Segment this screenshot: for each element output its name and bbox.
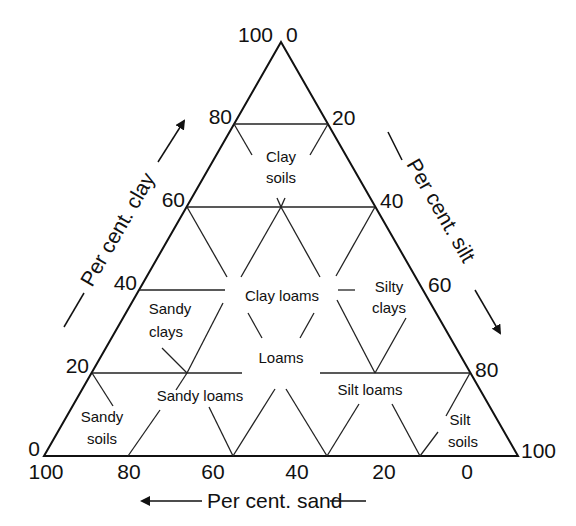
svg-text:60: 60 — [162, 188, 185, 211]
svg-text:40: 40 — [380, 189, 403, 212]
label-clay-soils: Clay — [266, 148, 297, 165]
svg-text:soils: soils — [266, 169, 296, 186]
svg-text:100: 100 — [28, 460, 63, 483]
svg-text:0: 0 — [286, 23, 298, 46]
svg-text:80: 80 — [475, 358, 498, 381]
svg-text:soils: soils — [448, 433, 478, 450]
clay-axis-title: Per cent. clay — [64, 121, 184, 327]
arrow-up-icon — [158, 121, 184, 162]
svg-text:40: 40 — [285, 460, 308, 483]
svg-text:clays: clays — [149, 323, 183, 340]
arrow-down-icon — [475, 290, 500, 333]
silt-axis-ticks: 0 20 40 60 80 100 — [286, 23, 556, 462]
label-sandy-loams: Sandy loams — [157, 387, 244, 404]
svg-text:0: 0 — [28, 437, 40, 460]
svg-text:40: 40 — [114, 271, 137, 294]
sand-axis-ticks: 100 80 60 40 20 0 — [28, 460, 472, 483]
label-clay-loams: Clay loams — [245, 287, 319, 304]
sand-axis-title: Per cent. sand — [142, 489, 366, 512]
svg-text:100: 100 — [238, 23, 273, 46]
svg-text:Per cent. sand: Per cent. sand — [207, 489, 342, 512]
label-silty-clays: Silty — [375, 278, 404, 295]
label-sandy-clays: Sandy — [149, 300, 192, 317]
label-sandy-soils: Sandy — [81, 408, 124, 425]
svg-text:80: 80 — [209, 105, 232, 128]
soil-texture-triangle: 100 80 60 40 20 0 0 20 40 60 80 100 100 … — [0, 0, 576, 526]
svg-text:soils: soils — [87, 430, 117, 447]
label-silt-loams: Silt loams — [337, 381, 402, 398]
label-loams: Loams — [258, 349, 303, 366]
svg-text:80: 80 — [117, 460, 140, 483]
svg-text:60: 60 — [428, 273, 451, 296]
svg-text:60: 60 — [201, 460, 224, 483]
svg-text:20: 20 — [332, 106, 355, 129]
svg-text:20: 20 — [66, 354, 89, 377]
svg-text:Per cent. silt: Per cent. silt — [403, 155, 481, 267]
svg-text:20: 20 — [372, 460, 395, 483]
svg-text:0: 0 — [461, 460, 473, 483]
label-silt-soils: Silt — [450, 411, 472, 428]
svg-text:clays: clays — [372, 299, 406, 316]
svg-text:100: 100 — [521, 439, 556, 462]
